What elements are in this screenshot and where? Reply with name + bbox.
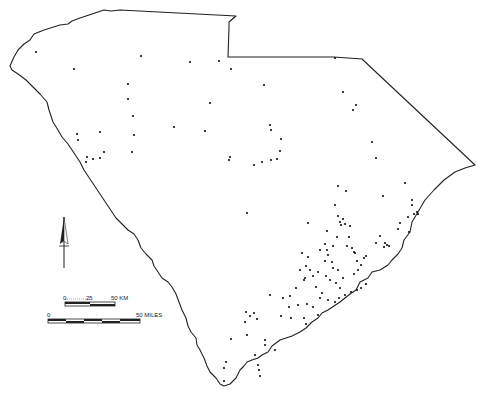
sample-point: [253, 164, 255, 166]
sample-point: [305, 265, 307, 267]
sample-point: [218, 60, 220, 62]
sample-point: [413, 213, 415, 215]
sample-point: [407, 216, 409, 218]
sample-point: [339, 221, 341, 223]
sample-point: [140, 55, 142, 57]
sample-point: [280, 315, 282, 317]
scale-km-tick-25: 25: [86, 295, 93, 301]
sample-point: [357, 269, 359, 271]
sample-point: [312, 275, 314, 277]
sample-point: [317, 271, 319, 273]
sample-point: [338, 297, 340, 299]
sample-point: [246, 334, 248, 336]
sample-point: [204, 130, 206, 132]
sample-point: [77, 139, 79, 141]
scale-miles-tick-0: 0: [47, 312, 51, 318]
sample-point: [340, 224, 342, 226]
sample-point: [264, 339, 266, 341]
sample-point: [399, 222, 401, 224]
sample-point: [99, 157, 101, 159]
sample-point: [76, 133, 78, 135]
sample-point: [339, 287, 341, 289]
sample-point: [133, 134, 135, 136]
sample-point: [230, 68, 232, 70]
sample-point: [303, 279, 305, 281]
sample-point: [85, 161, 87, 163]
scale-bar-km: 0 25 50 KM: [63, 295, 128, 306]
scale-miles-tick-50: 50 MILES: [136, 312, 162, 318]
sample-point: [348, 236, 350, 238]
sample-point: [256, 318, 258, 320]
sample-point: [299, 269, 301, 271]
sample-point: [371, 141, 373, 143]
sample-point: [209, 102, 211, 104]
sample-point: [253, 312, 255, 314]
sample-point: [132, 115, 134, 117]
sample-point: [295, 287, 297, 289]
sample-point: [249, 315, 251, 317]
sample-point: [327, 254, 329, 256]
sample-point: [342, 218, 344, 220]
sample-point: [342, 91, 344, 93]
sample-point: [319, 297, 321, 299]
sample-point: [228, 159, 230, 161]
sample-point: [335, 282, 337, 284]
sample-point: [288, 306, 290, 308]
sample-point: [388, 245, 390, 247]
sample-point: [229, 156, 231, 158]
sample-point: [345, 190, 347, 192]
sample-point: [416, 211, 418, 213]
sample-point: [411, 199, 413, 201]
sample-point: [269, 124, 271, 126]
sample-point: [274, 349, 276, 351]
sample-point: [305, 323, 307, 325]
sample-point: [411, 204, 413, 206]
sample-point: [417, 213, 419, 215]
sample-point: [332, 245, 334, 247]
sample-point: [269, 294, 271, 296]
sample-point: [297, 304, 299, 306]
sample-point: [306, 303, 308, 305]
sample-point: [254, 354, 256, 356]
sample-point: [276, 158, 278, 160]
sample-point: [127, 83, 129, 85]
sample-point: [344, 223, 346, 225]
sample-point: [307, 256, 309, 258]
sample-point: [86, 156, 88, 158]
sample-point: [337, 185, 339, 187]
sample-point: [73, 68, 75, 70]
sample-point: [382, 195, 384, 197]
sample-point: [290, 317, 292, 319]
sample-point: [404, 182, 406, 184]
sample-point: [334, 57, 336, 59]
sample-point: [379, 235, 381, 237]
sample-point: [304, 277, 306, 279]
state-border: [10, 10, 475, 386]
sample-point: [225, 361, 227, 363]
sample-point: [365, 255, 367, 257]
sample-point: [223, 367, 225, 369]
sample-point: [307, 222, 309, 224]
sample-point: [131, 151, 133, 153]
sample-points: [35, 51, 419, 382]
sample-point: [189, 61, 191, 63]
scale-km-tick-50: 50 KM: [111, 295, 128, 301]
sample-point: [103, 151, 105, 153]
sample-point: [383, 246, 385, 248]
sample-point: [246, 212, 248, 214]
sample-point: [337, 269, 339, 271]
sample-point: [375, 242, 377, 244]
sample-point: [336, 236, 338, 238]
scale-km-tick-0: 0: [63, 295, 67, 301]
sample-point: [331, 261, 333, 263]
sample-point: [35, 51, 37, 53]
sample-point: [329, 279, 331, 281]
sample-point: [386, 244, 388, 246]
sample-point: [244, 321, 246, 323]
sample-point: [351, 247, 353, 249]
sample-point: [334, 301, 336, 303]
sample-point: [99, 131, 101, 133]
sample-point: [326, 249, 328, 251]
sample-point: [282, 297, 284, 299]
sample-point: [270, 129, 272, 131]
